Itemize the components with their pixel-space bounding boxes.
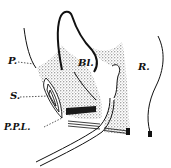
left-boundary-line (24, 28, 36, 68)
label-ppl: P.P.L. (4, 123, 30, 132)
label-bl: Bl. (78, 58, 94, 68)
label-s: S. (10, 91, 20, 101)
diagram-canvas (0, 0, 171, 168)
label-r: R. (138, 62, 150, 72)
label-p: P. (8, 56, 17, 66)
stippled-tissue-right (92, 42, 130, 135)
rectum-line (148, 36, 163, 132)
column-end-mark (126, 128, 130, 135)
rectum-end-mark (148, 131, 152, 137)
